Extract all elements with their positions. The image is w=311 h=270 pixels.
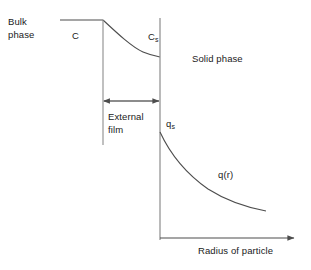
label-bulk-concentration-c: C [72,29,79,42]
label-qs-subscript: s [171,123,175,130]
label-bulk-phase: Bulk phase [8,15,54,41]
label-external-film: External film [108,110,156,136]
label-surface-loading-qs: qs [166,117,175,131]
label-x-axis-radius-of-particle: Radius of particle [198,244,273,257]
solid-phase-loading-curve [160,132,266,211]
label-solid-profile-qr: q(r) [218,168,233,181]
label-cs-subscript: s [155,36,159,43]
label-surface-concentration-cs: Cs [148,30,159,44]
diagram-canvas: Bulk phase C Cs Solid phase External fil… [0,0,311,270]
label-solid-phase: Solid phase [192,52,243,65]
label-cs-base: C [148,31,155,42]
